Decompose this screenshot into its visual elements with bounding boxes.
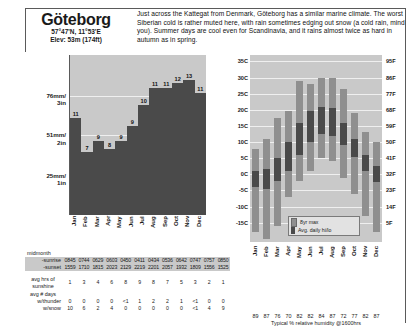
sunshine-value: 3 bbox=[188, 279, 202, 286]
temp-month-label: Apr bbox=[283, 246, 294, 276]
temp-celsius-tick-label: 15C bbox=[228, 123, 248, 129]
temp-fahrenheit-tick-label: 95F bbox=[386, 58, 406, 64]
sunshine-value: 3 bbox=[77, 279, 91, 286]
humidity-value: 77 bbox=[349, 312, 360, 320]
sunrise-value: 0642 bbox=[174, 257, 188, 264]
sunshine-value: 8 bbox=[119, 279, 133, 286]
sunset-row: -sunset 15591710181520232129221922012057… bbox=[25, 264, 230, 271]
precip-month-labels: JanFebMarAprMayJunJulAugSepOctNovDec bbox=[69, 216, 205, 250]
temp-plot-area bbox=[250, 55, 382, 242]
temp-month-label: Feb bbox=[261, 246, 272, 276]
temp-fahrenheit-tick-label: 14F bbox=[386, 204, 406, 210]
temp-celsius-tick-label: -10C bbox=[228, 204, 248, 210]
temp-gridline bbox=[250, 94, 382, 95]
thunder-row: w/thunder 0000<11221<100 bbox=[25, 298, 230, 305]
thunder-value: 0 bbox=[91, 298, 105, 305]
sunshine-value: 5 bbox=[174, 279, 188, 286]
city-block: Göteborg 57°47'N, 11°53'E Elev: 53m (174… bbox=[25, 11, 127, 44]
snow-label: w/snow bbox=[25, 305, 63, 312]
precip-bar bbox=[70, 118, 81, 215]
sunshine-values: 134689875321 bbox=[63, 279, 230, 286]
precip-y-tick-label: 76mm/3in bbox=[46, 92, 66, 107]
precip-month-label: Jul bbox=[137, 216, 148, 248]
precip-wet-days-value: 13 bbox=[182, 73, 196, 79]
temp-average-bar bbox=[340, 123, 347, 146]
precip-bar bbox=[115, 141, 126, 215]
temp-fahrenheit-tick-label: 32F bbox=[386, 171, 406, 177]
sunrise-row: -sunrise 0845074406290603045004110434053… bbox=[25, 257, 230, 264]
humidity-value: 87 bbox=[261, 312, 272, 320]
sunshine-value: 9 bbox=[133, 279, 147, 286]
temp-average-bar bbox=[274, 158, 281, 181]
temp-average-bar bbox=[362, 155, 369, 171]
temp-average-bar bbox=[296, 123, 303, 155]
temperature-chart: 35C30C25C20C15C10C5C0C-5C-10C-15C 95F86F… bbox=[228, 55, 406, 230]
sunrise-value: 0603 bbox=[105, 257, 119, 264]
precip-wet-days-value: 9 bbox=[91, 134, 105, 140]
snow-value: 4 bbox=[202, 305, 216, 312]
city-coordinates: 57°47'N, 11°53'E bbox=[25, 28, 127, 36]
snow-value: 0 bbox=[133, 305, 147, 312]
sunset-value: 1556 bbox=[202, 264, 216, 271]
sunshine-value: 4 bbox=[91, 279, 105, 286]
midmonth-row: midmonth bbox=[25, 250, 230, 257]
city-elevation: Elev: 53m (174ft) bbox=[25, 36, 127, 44]
precip-bar bbox=[183, 80, 194, 215]
temp-fahrenheit-tick-label: 77F bbox=[386, 91, 406, 97]
thunder-value: <1 bbox=[188, 298, 202, 305]
snow-value: 6 bbox=[77, 305, 91, 312]
sunset-value: 1710 bbox=[77, 264, 91, 271]
precip-month-label: May bbox=[114, 216, 125, 248]
thunder-value: 0 bbox=[202, 298, 216, 305]
precip-bar bbox=[138, 105, 149, 215]
sunrise-value: 0850 bbox=[216, 257, 230, 264]
temp-gridline bbox=[250, 61, 382, 62]
precip-y-tick-label: 51mm/2in bbox=[46, 131, 66, 146]
temp-celsius-tick-label: 5C bbox=[228, 155, 248, 161]
temp-average-bar bbox=[373, 166, 380, 182]
snow-value: 4 bbox=[105, 305, 119, 312]
temp-legend: 8yr max Avg. daily hi/lo bbox=[288, 216, 360, 236]
thunder-label: w/thunder bbox=[25, 298, 63, 305]
sunset-value: 1932 bbox=[174, 264, 188, 271]
snow-value: 2 bbox=[91, 305, 105, 312]
sunset-value: 1525 bbox=[216, 264, 230, 271]
temp-fahrenheit-tick-label: 68F bbox=[386, 107, 406, 113]
precip-month-label: Oct bbox=[171, 216, 182, 248]
page-title: Göteborg bbox=[25, 11, 127, 28]
precip-y-tick-label: 25mm/1in bbox=[46, 172, 66, 187]
sunshine-value: 7 bbox=[160, 279, 174, 286]
snow-value: 9 bbox=[216, 305, 230, 312]
sunrise-value: 0757 bbox=[202, 257, 216, 264]
temp-gridline bbox=[250, 126, 382, 127]
precip-month-label: Nov bbox=[182, 216, 193, 248]
thunder-value: 1 bbox=[174, 298, 188, 305]
temp-fahrenheit-tick-label: 50F bbox=[386, 139, 406, 145]
temp-gridline bbox=[250, 78, 382, 79]
precip-bar bbox=[81, 152, 92, 215]
temp-celsius-tick-label: 0C bbox=[228, 171, 248, 177]
humidity-value: 87 bbox=[371, 312, 382, 320]
humidity-value: 87 bbox=[327, 312, 338, 320]
sunset-value: 2057 bbox=[160, 264, 174, 271]
precip-month-label: Apr bbox=[103, 216, 114, 248]
precip-bar bbox=[149, 88, 160, 215]
precip-bar bbox=[172, 83, 183, 215]
temp-extreme-bar bbox=[252, 149, 259, 233]
sunrise-value: 0747 bbox=[188, 257, 202, 264]
sunshine-value: 8 bbox=[147, 279, 161, 286]
temp-month-label: Sep bbox=[338, 246, 349, 276]
sunrise-value: 0845 bbox=[63, 257, 77, 264]
climate-page: Göteborg 57°47'N, 11°53'E Elev: 53m (174… bbox=[0, 0, 412, 332]
humidity-values: 898776708282848772778287 bbox=[250, 312, 382, 320]
precip-bar bbox=[195, 93, 206, 215]
temp-month-label: Nov bbox=[360, 246, 371, 276]
temp-average-bar bbox=[329, 108, 336, 135]
precipitation-chart: 76mm/3in51mm/2in25mm/1in No. of wet days… bbox=[25, 55, 205, 230]
humidity-value: 82 bbox=[294, 312, 305, 320]
precip-month-label: Dec bbox=[194, 216, 205, 248]
temp-month-label: Jun bbox=[305, 246, 316, 276]
sunshine-value: 1 bbox=[63, 279, 77, 286]
thunder-value: 2 bbox=[147, 298, 161, 305]
precip-month-label: Jan bbox=[69, 216, 80, 248]
